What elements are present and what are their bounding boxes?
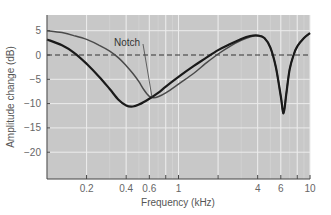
y-tick-label: 0: [35, 50, 41, 61]
x-tick-label: 0.2: [80, 183, 94, 194]
y-tick-label: −20: [24, 147, 41, 158]
x-tick-label: 1: [176, 183, 182, 194]
x-tick-label: 0.4: [119, 183, 133, 194]
y-tick-label: 5: [35, 25, 41, 36]
y-tick-label: −5: [30, 74, 42, 85]
y-axis-title: Amplitude change (dB): [5, 46, 16, 148]
annotation-label: Notch: [114, 37, 140, 48]
y-tick-label: −10: [24, 98, 41, 109]
x-tick-label: 4: [255, 183, 261, 194]
y-axis-ticks: 50−5−10−15−20: [24, 25, 50, 158]
x-tick-label: 6: [278, 183, 284, 194]
x-tick-label: 0.6: [142, 183, 156, 194]
x-axis-title: Frequency (kHz): [141, 197, 215, 208]
x-tick-label: 10: [304, 183, 316, 194]
y-tick-label: −15: [24, 122, 41, 133]
chart: 0.20.40.614610 50−5−10−15−20 Notch Frequ…: [0, 0, 331, 215]
